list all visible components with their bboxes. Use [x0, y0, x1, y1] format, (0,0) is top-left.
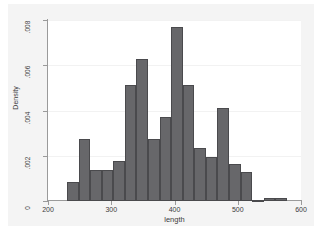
histogram-figure: 0.002.004.006.008 200300400500600 Densit…: [0, 0, 321, 240]
histogram-bar: [194, 148, 206, 201]
y-tick-label-text: .006: [23, 66, 33, 79]
histogram-bar: [252, 200, 264, 202]
x-tick-label: 400: [155, 206, 195, 213]
histogram-bar: [79, 139, 91, 201]
y-tick-mark: [43, 156, 48, 157]
histogram-bar: [264, 198, 276, 201]
histogram-bar: [171, 27, 183, 201]
histogram-bar: [67, 182, 79, 201]
y-axis-title: Density: [0, 92, 46, 104]
x-tick-mark: [301, 200, 302, 205]
y-tick-mark: [43, 111, 48, 112]
histogram-bar: [275, 198, 287, 201]
y-tick-label: 0: [14, 196, 42, 206]
x-tick-mark: [48, 200, 49, 205]
histogram-bar: [206, 157, 218, 201]
histogram-bar: [148, 139, 160, 201]
histogram-bar: [113, 161, 125, 201]
y-tick-label: .008: [14, 15, 42, 25]
y-tick-label: .006: [14, 60, 42, 70]
y-tick-mark: [43, 65, 48, 66]
histogram-bar: [217, 108, 229, 201]
x-tick-label: 200: [28, 206, 68, 213]
x-tick-label: 300: [91, 206, 131, 213]
histogram-bar: [136, 59, 148, 201]
gridline: [48, 20, 301, 21]
histogram-bar: [160, 117, 172, 201]
y-tick-mark: [43, 20, 48, 21]
histogram-bar: [90, 170, 102, 201]
y-tick-label-text: .002: [23, 156, 33, 169]
x-tick-label: 500: [218, 206, 258, 213]
y-tick-label: .002: [14, 151, 42, 161]
histogram-bar: [241, 172, 253, 201]
histogram-bar: [102, 170, 114, 201]
x-axis-title: length: [48, 215, 301, 224]
x-tick-label: 600: [281, 206, 321, 213]
histogram-bar: [125, 85, 137, 201]
histogram-bar: [183, 85, 195, 201]
y-tick-label-text: .004: [23, 111, 33, 124]
histogram-bar: [229, 164, 241, 201]
y-axis-title-label: Density: [10, 86, 22, 109]
y-tick-label-text: .008: [23, 21, 33, 34]
